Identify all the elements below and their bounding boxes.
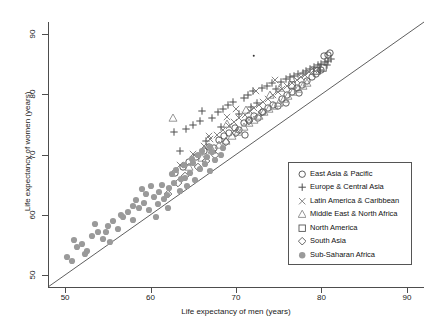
legend-box[interactable]: East Asia & PacificEurope & Central Asia… <box>288 162 412 265</box>
data-point <box>169 114 177 122</box>
data-point <box>206 135 214 143</box>
data-point <box>303 77 311 85</box>
data-point <box>155 188 163 196</box>
data-point <box>276 83 284 91</box>
data-point <box>222 138 230 146</box>
triangle-open-icon <box>294 208 310 220</box>
data-point <box>171 168 179 176</box>
data-point <box>170 127 178 135</box>
plus-icon <box>294 181 310 193</box>
data-point <box>247 103 255 111</box>
data-point <box>310 65 318 73</box>
data-point <box>176 147 184 155</box>
data-point <box>208 145 216 153</box>
data-point <box>119 212 127 220</box>
data-point <box>196 117 204 125</box>
data-point <box>266 91 274 99</box>
data-point <box>63 253 71 261</box>
data-point <box>129 216 137 224</box>
data-point <box>134 203 142 211</box>
data-point <box>239 123 247 131</box>
legend-item-latin-america-caribbean[interactable]: Latin America & Caribbean <box>289 194 411 208</box>
data-point <box>222 136 230 144</box>
data-point <box>257 108 265 116</box>
data-point <box>109 217 117 225</box>
data-point <box>231 124 239 132</box>
legend-item-east-asia-pacific[interactable]: East Asia & Pacific <box>289 167 411 181</box>
data-point <box>168 170 176 178</box>
data-point <box>298 68 306 76</box>
data-point <box>268 79 276 87</box>
data-point <box>316 66 324 74</box>
data-point <box>255 112 263 120</box>
data-point <box>253 99 261 107</box>
data-point <box>283 91 291 99</box>
data-point <box>219 144 227 152</box>
data-point <box>292 76 300 84</box>
data-point <box>196 165 204 173</box>
data-point <box>327 55 335 63</box>
data-point <box>301 71 309 79</box>
data-point <box>324 56 332 64</box>
data-point <box>312 70 320 78</box>
data-point <box>286 73 294 81</box>
data-point <box>229 97 237 105</box>
legend-item-sub-saharan-africa[interactable]: Sub-Saharan Africa <box>289 248 411 262</box>
legend-item-north-america[interactable]: North America <box>289 221 411 235</box>
data-point <box>295 89 303 97</box>
outlier-data-point <box>253 54 256 57</box>
data-point <box>104 222 112 230</box>
data-point <box>290 72 298 80</box>
data-point <box>163 191 171 199</box>
data-point <box>208 148 216 156</box>
data-point <box>204 143 212 151</box>
data-point <box>316 66 324 74</box>
circle-filled-icon <box>294 249 310 261</box>
data-point <box>181 174 189 182</box>
data-point <box>245 117 253 125</box>
data-point <box>223 120 231 128</box>
data-point <box>258 84 266 92</box>
data-point <box>264 103 272 111</box>
legend-item-label: Europe & Central Asia <box>310 183 384 191</box>
data-point <box>239 94 247 102</box>
data-point <box>201 160 209 168</box>
legend-item-europe-central-asia[interactable]: Europe & Central Asia <box>289 181 411 195</box>
data-point <box>322 61 330 69</box>
data-point <box>185 158 193 166</box>
data-point <box>281 75 289 83</box>
data-point <box>117 211 125 219</box>
data-point <box>298 82 306 90</box>
data-point <box>124 208 132 216</box>
data-point <box>81 250 89 258</box>
data-point <box>272 85 280 93</box>
data-point <box>320 52 328 60</box>
data-point <box>324 50 332 58</box>
data-point <box>303 79 311 87</box>
data-point <box>222 113 230 121</box>
data-point <box>208 114 216 122</box>
data-point <box>326 49 334 57</box>
data-point <box>150 193 158 201</box>
legend-item-middle-east-north-africa[interactable]: Middle East & North Africa <box>289 208 411 222</box>
data-point <box>219 105 227 113</box>
data-point <box>271 76 279 84</box>
data-point <box>310 63 318 71</box>
data-point <box>203 153 211 161</box>
data-point <box>176 187 184 195</box>
data-point <box>202 136 210 144</box>
data-point <box>287 81 295 89</box>
data-point <box>210 144 218 152</box>
data-point <box>140 199 148 207</box>
circle-open-icon <box>294 168 310 180</box>
data-point <box>179 163 187 171</box>
data-point <box>186 169 194 177</box>
data-point <box>302 67 310 75</box>
data-point <box>185 162 193 170</box>
data-point <box>232 129 240 137</box>
legend-item-label: North America <box>310 224 358 232</box>
data-point <box>306 65 314 73</box>
legend-item-south-asia[interactable]: South Asia <box>289 235 411 249</box>
data-point <box>317 59 325 67</box>
data-point <box>152 213 160 221</box>
